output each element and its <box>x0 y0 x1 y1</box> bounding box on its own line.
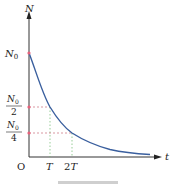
tick-label-T: T <box>46 161 54 172</box>
quarter-marker <box>27 131 30 134</box>
decay-chart: N t O N0 N0 2 N0 4 T 2T <box>0 0 171 185</box>
origin-label: O <box>17 161 25 172</box>
quarter-label-denominator: 4 <box>11 133 17 143</box>
x-axis-arrow-icon <box>154 155 162 160</box>
n0-marker <box>27 51 30 54</box>
n0-label: N0 <box>4 48 18 61</box>
half-label-numerator: N0 <box>6 94 19 105</box>
y-axis-label: N <box>24 3 35 14</box>
quarter-label-numerator: N0 <box>6 120 19 131</box>
decay-curve <box>29 53 150 155</box>
tick-label-2T: 2T <box>64 161 78 172</box>
x-axis-label: t <box>165 151 170 162</box>
half-marker <box>27 105 30 108</box>
half-label-denominator: 2 <box>11 107 17 117</box>
caption-fragment <box>58 181 118 184</box>
